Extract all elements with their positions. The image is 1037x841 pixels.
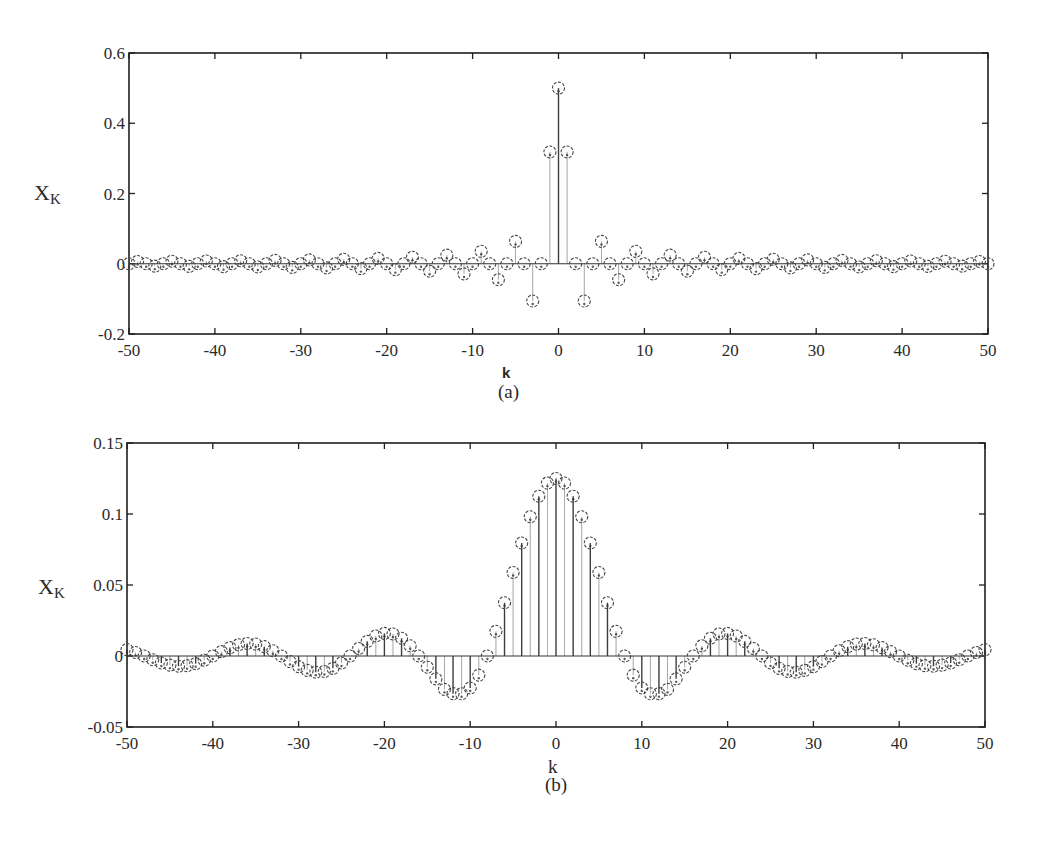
y-tick-label: -0.05 <box>88 718 123 737</box>
x-tick-label: -40 <box>201 734 224 753</box>
y-tick-label: 0 <box>117 255 126 274</box>
x-tick-label: 20 <box>722 341 739 360</box>
x-tick-label: 20 <box>719 734 736 753</box>
x-tick-label: -10 <box>461 341 484 360</box>
y-tick-label: 0.2 <box>104 185 125 204</box>
x-tick-label: -30 <box>289 341 312 360</box>
x-tick-label: -20 <box>373 734 396 753</box>
figure: -50-40-30-20-1001020304050-0.200.20.40.6… <box>0 0 1037 841</box>
x-tick-label: 40 <box>891 734 908 753</box>
panel-b-caption: (b) <box>545 774 567 796</box>
y-tick-label: -0.2 <box>98 325 125 344</box>
x-tick-label: -30 <box>287 734 310 753</box>
x-tick-label: 0 <box>554 341 563 360</box>
x-tick-label: -20 <box>375 341 398 360</box>
panel-b-y-axis-label: XK <box>38 574 65 602</box>
y-tick-label: 0.4 <box>104 114 126 133</box>
y-tick-label: 0.6 <box>104 44 125 63</box>
x-tick-label: 10 <box>636 341 653 360</box>
panel-a-y-axis-label: XK <box>34 180 61 208</box>
x-tick-label: 30 <box>808 341 825 360</box>
y-tick-label: 0 <box>115 647 124 666</box>
x-tick-label: -40 <box>204 341 227 360</box>
x-tick-label: 50 <box>980 341 997 360</box>
panel-b-plot: -50-40-30-20-1001020304050-0.0500.050.10… <box>88 434 994 753</box>
stem-plots-canvas: -50-40-30-20-1001020304050-0.200.20.40.6… <box>0 0 1037 841</box>
y-tick-label: 0.1 <box>102 505 123 524</box>
x-tick-label: 10 <box>633 734 650 753</box>
panel-a-x-axis-label: k <box>502 364 510 381</box>
x-tick-label: -10 <box>459 734 482 753</box>
y-tick-label: 0.05 <box>93 576 123 595</box>
panel-a-plot: -50-40-30-20-1001020304050-0.200.20.40.6 <box>98 44 996 360</box>
panel-a-caption: (a) <box>498 381 519 403</box>
x-tick-label: 0 <box>552 734 561 753</box>
x-tick-label: 40 <box>894 341 911 360</box>
y-tick-label: 0.15 <box>93 434 123 453</box>
x-tick-label: 50 <box>977 734 994 753</box>
x-tick-label: 30 <box>805 734 822 753</box>
